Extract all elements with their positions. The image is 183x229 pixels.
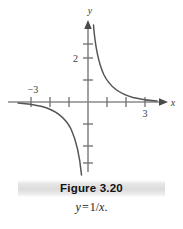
y-tick-label-2: 2 bbox=[73, 53, 78, 64]
curve-branch-quadrant-one bbox=[94, 25, 158, 101]
y-axis-label: y bbox=[87, 5, 93, 16]
figure-formula-label: y=1/x. bbox=[0, 200, 183, 215]
curve-branch-quadrant-three bbox=[18, 103, 82, 175]
x-tick-label-3: 3 bbox=[143, 108, 148, 119]
figure-number-label: Figure 3.20 bbox=[0, 180, 183, 197]
coordinate-plot: y x 2 −3 3 bbox=[0, 0, 183, 180]
formula-equals: = bbox=[81, 200, 90, 214]
x-axis-label: x bbox=[170, 97, 176, 108]
x-axis-arrowhead bbox=[159, 98, 168, 106]
x-tick-label-minus-3: −3 bbox=[28, 84, 39, 95]
formula-period: . bbox=[104, 200, 107, 214]
figure-caption: Figure 3.20 y=1/x. bbox=[0, 178, 183, 229]
y-axis-arrowhead bbox=[84, 20, 92, 29]
figure-container: y x 2 −3 3 Figure 3.20 y=1/x. bbox=[0, 0, 183, 229]
plot-area: y x 2 −3 3 bbox=[0, 0, 183, 180]
